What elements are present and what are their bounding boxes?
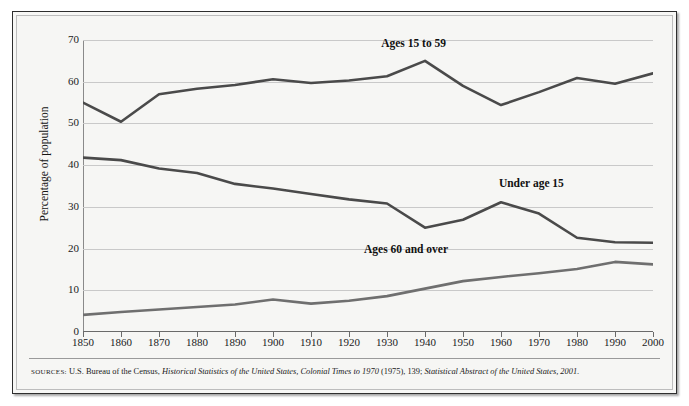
source-text-2: (1975), 139;: [381, 367, 422, 376]
y-tick-label-50: 50: [53, 117, 79, 128]
y-tick-label-70: 70: [53, 34, 79, 45]
source-divider: [29, 358, 660, 359]
y-tick-label-20: 20: [53, 243, 79, 254]
figure-frame: Percentage of population 010203040506070…: [12, 11, 677, 394]
y-axis-tick-labels: 010203040506070: [51, 40, 79, 332]
y-tick-label-60: 60: [53, 76, 79, 87]
series-line-under-age-15: [83, 158, 653, 243]
y-tick-label-10: 10: [53, 284, 79, 295]
y-tick-label-40: 40: [53, 159, 79, 170]
source-italic-1: Historical Statistics of the United Stat…: [162, 367, 379, 376]
series-label-under-age-15: Under age 15: [499, 177, 564, 189]
y-tick-label-30: 30: [53, 201, 79, 212]
series-line-ages-15-to-59: [83, 61, 653, 122]
series-label-ages-60-and-over: Ages 60 and over: [364, 243, 448, 255]
x-axis-tick-labels: 1850186018701880189019001910192019301940…: [83, 336, 653, 352]
series-label-ages-15-to-59: Ages 15 to 59: [381, 37, 446, 49]
source-prefix: SOURCES:: [31, 368, 67, 376]
y-axis-title: Percentage of population: [38, 84, 50, 244]
x-tick-label-2000: 2000: [630, 336, 676, 348]
chart-lines: [83, 40, 653, 332]
source-note: SOURCES: U.S. Bureau of the Census, Hist…: [31, 366, 662, 378]
source-italic-2: Statistical Abstract of the United State…: [424, 367, 577, 376]
figure-inner-panel: Percentage of population 010203040506070…: [16, 15, 673, 390]
series-line-ages-60-and-over: [83, 262, 653, 315]
source-text-end: .: [577, 367, 579, 376]
source-text-1: U.S. Bureau of the Census,: [69, 367, 160, 376]
